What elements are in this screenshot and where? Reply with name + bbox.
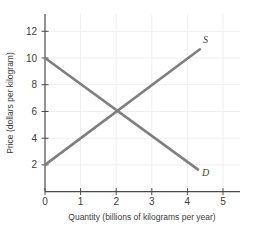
chart-canvas: 12 10 8 6 4 2 0 1 2 3 4 5 S D Quantity (…	[0, 0, 255, 228]
chart-background	[0, 0, 255, 228]
xtick-label-5: 5	[220, 196, 226, 207]
x-axis-title: Quantity (billions of kilograms per year…	[68, 212, 216, 222]
xtick-label-3: 3	[149, 196, 155, 207]
ytick-label-4: 4	[31, 133, 37, 144]
xtick-label-0: 0	[42, 196, 48, 207]
demand-curve-label: D	[201, 167, 210, 178]
supply-demand-chart: 12 10 8 6 4 2 0 1 2 3 4 5 S D Quantity (…	[0, 0, 255, 228]
ytick-label-2: 2	[31, 159, 37, 170]
ytick-label-6: 6	[31, 106, 37, 117]
y-axis-title: Price (dollars per kilogram)	[5, 52, 15, 154]
ytick-label-8: 8	[31, 79, 37, 90]
xtick-label-4: 4	[185, 196, 191, 207]
ytick-label-10: 10	[26, 53, 38, 64]
xtick-label-1: 1	[78, 196, 84, 207]
xtick-label-2: 2	[113, 196, 119, 207]
supply-curve-label: S	[203, 34, 208, 45]
ytick-label-12: 12	[26, 26, 38, 37]
